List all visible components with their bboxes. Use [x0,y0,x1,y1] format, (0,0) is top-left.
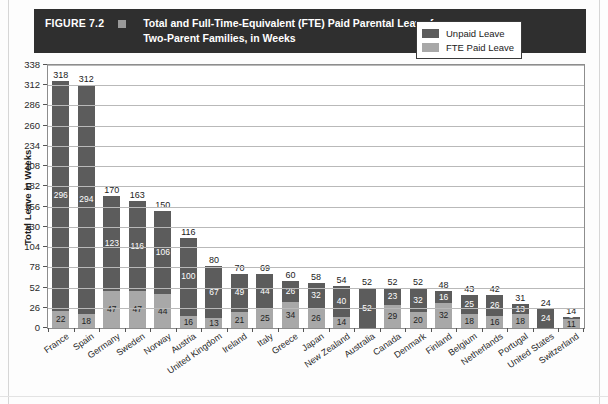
bar-group[interactable]: 16100116 [180,238,197,328]
y-tick-mark [43,266,47,267]
bar-segment-fte-paid[interactable]: 44 [154,294,171,328]
y-tick-label: 78 [14,261,40,272]
bar-segment-value: 13 [515,305,524,314]
y-tick-mark [43,84,47,85]
bar-segment-value: 13 [209,319,218,328]
bar-segment-value: 47 [107,305,116,314]
bar-group[interactable]: 136780 [205,266,222,328]
legend-item-paid: FTE Paid Leave [422,40,514,54]
y-tick-label: 338 [14,59,40,70]
bar-segment-fte-paid[interactable]: 16 [180,316,197,328]
bar-segment-value: 22 [56,315,65,324]
figure-marker-icon [118,20,126,28]
bar-total-label: 58 [311,272,321,282]
bar-segment-fte-paid[interactable]: 47 [103,291,120,328]
bar-segment-unpaid[interactable]: 294 [78,85,95,314]
bar-total-label: 52 [413,277,423,287]
bar-group[interactable]: 182543 [461,295,478,328]
bar-segment-fte-paid[interactable]: 20 [410,312,427,328]
gridline [48,207,584,208]
gridline [48,186,584,187]
y-axis-title: Total Leave in Weeks [22,150,33,245]
bar-segment-unpaid[interactable]: 296 [52,81,69,311]
bar-segment-fte-paid[interactable]: 21 [231,312,248,328]
bar-group[interactable]: 321648 [435,291,452,328]
bar-group[interactable]: 22296318 [52,81,69,328]
figure-title-line2: Two-Parent Families, in Weeks [143,32,296,44]
bar-segment-unpaid[interactable]: 26 [486,295,503,315]
gridline [48,85,584,86]
bar-segment-value: 294 [79,195,93,204]
bar-segment-value: 18 [515,317,524,326]
bar-segment-value: 24 [541,314,550,323]
x-tick-label: Ireland [221,331,249,355]
bar-group[interactable]: 02424 [537,309,554,328]
gridline [48,288,584,289]
bar-segment-fte-paid[interactable]: 29 [384,305,401,328]
legend-swatch-unpaid [422,29,439,38]
bar-segment-unpaid[interactable]: 23 [384,288,401,306]
bar-segment-fte-paid[interactable]: 16 [486,316,503,328]
bar-segment-unpaid[interactable]: 67 [205,266,222,318]
bar-segment-fte-paid[interactable]: 18 [78,314,95,328]
bar-segment-unpaid[interactable]: 123 [103,196,120,292]
bar-segment-value: 18 [82,317,91,326]
bar-total-label: 31 [515,293,525,303]
bar-group[interactable]: 47116163 [129,201,146,328]
bar-segment-value: 26 [311,314,320,323]
bar-segment-unpaid[interactable]: 26 [282,281,299,301]
figure-title: Total and Full-Time-Equivalent (FTE) Pai… [143,16,444,45]
bar-group[interactable]: 162642 [486,295,503,328]
bar-segment-fte-paid[interactable]: 34 [282,302,299,328]
y-tick-mark [43,64,47,65]
bar-segment-value: 32 [439,311,448,320]
bar-segment-unpaid[interactable]: 24 [537,309,554,328]
bar-segment-fte-paid[interactable]: 47 [129,291,146,328]
bar-group[interactable]: 11314 [563,317,580,328]
bar-segment-unpaid[interactable]: 3 [563,317,580,319]
x-tick-label: Greece [270,331,300,356]
gridline [48,227,584,228]
bar-segment-unpaid[interactable]: 13 [512,304,529,314]
gridline [48,267,584,268]
bar-total-label: 42 [490,284,500,294]
y-tick-mark [43,206,47,207]
bar-segment-unpaid[interactable]: 25 [461,295,478,314]
bar-segment-unpaid[interactable]: 16 [435,291,452,303]
bar-total-label: 80 [209,255,219,265]
y-tick-label: 312 [14,79,40,90]
page-border-left [8,0,9,404]
bar-total-label: 52 [388,277,398,287]
bar-group[interactable]: 44106150 [154,211,171,328]
bar-total-label: 60 [285,270,295,280]
bar-segment-fte-paid[interactable]: 22 [52,311,69,328]
y-tick-mark [43,185,47,186]
x-tick-label: France [42,331,71,355]
bar-segment-fte-paid[interactable]: 18 [512,314,529,328]
bar-segment-fte-paid[interactable]: 26 [308,308,325,328]
bar-segment-unpaid[interactable]: 49 [231,274,248,312]
bar-segment-value: 34 [286,311,295,320]
legend-item-unpaid: Unpaid Leave [422,26,514,40]
gridline [48,105,584,106]
y-tick-label: 52 [14,281,40,292]
bar-group[interactable]: 254469 [256,274,273,328]
bar-segment-fte-paid[interactable]: 13 [205,318,222,328]
bar-segment-fte-paid[interactable]: 25 [256,309,273,328]
gridline [48,247,584,248]
bar-segment-fte-paid[interactable]: 11 [563,319,580,328]
bar-segment-value: 32 [413,296,422,305]
chart-legend: Unpaid Leave FTE Paid Leave [416,21,522,59]
bar-segment-unpaid[interactable]: 100 [180,238,197,316]
bar-segment-unpaid[interactable]: 40 [333,286,350,317]
bar-segment-value: 16 [184,318,193,327]
y-tick-mark [43,307,47,308]
bar-segment-fte-paid[interactable]: 18 [461,314,478,328]
bar-group[interactable]: 214970 [231,274,248,328]
bar-segment-unpaid[interactable]: 106 [154,211,171,293]
bar-total-label: 312 [79,74,94,84]
bar-segment-unpaid[interactable]: 44 [256,274,273,308]
legend-swatch-paid [422,43,439,52]
bar-group[interactable]: 263258 [308,283,325,328]
bar-segment-fte-paid[interactable]: 14 [333,317,350,328]
